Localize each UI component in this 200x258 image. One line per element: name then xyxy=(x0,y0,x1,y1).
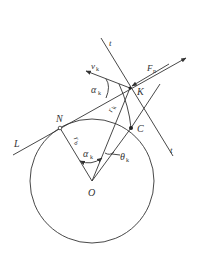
svg-text:v: v xyxy=(91,61,95,71)
angle-arc-alpha-K xyxy=(106,79,109,98)
label-K: K xyxy=(136,86,145,97)
label-alpha-K: α k xyxy=(91,84,101,96)
line-L xyxy=(13,58,186,155)
theta-leader xyxy=(112,154,120,155)
label-Fn: F n xyxy=(146,63,156,74)
point-K-marker xyxy=(129,87,132,90)
label-C: C xyxy=(137,123,144,134)
label-rk: r k xyxy=(105,104,117,114)
svg-text:n: n xyxy=(153,68,156,74)
label-N: N xyxy=(55,113,64,124)
svg-text:θ: θ xyxy=(120,151,125,162)
svg-text:k: k xyxy=(90,154,93,160)
point-N-marker xyxy=(58,126,62,130)
label-alpha-O: α k xyxy=(83,148,93,160)
svg-text:k: k xyxy=(96,66,99,72)
involute-diagram: N C K O L t t F n v k α k r k r b α k θ … xyxy=(0,0,200,258)
radius-rk xyxy=(92,88,130,181)
point-C-marker xyxy=(129,126,133,130)
label-t-bottom: t xyxy=(170,145,173,155)
label-L: L xyxy=(13,138,20,149)
svg-text:k: k xyxy=(126,157,129,163)
svg-text:α: α xyxy=(91,84,97,95)
line-OC xyxy=(92,128,131,181)
svg-text:α: α xyxy=(83,148,89,159)
label-O: O xyxy=(88,187,95,198)
svg-text:F: F xyxy=(146,63,153,73)
svg-text:k: k xyxy=(98,90,101,96)
label-t-top: t xyxy=(109,38,112,48)
label-rb: r b xyxy=(71,135,83,146)
label-theta: θ k xyxy=(120,151,129,163)
line-C-extension xyxy=(131,84,160,128)
label-vk: v k xyxy=(91,61,99,72)
